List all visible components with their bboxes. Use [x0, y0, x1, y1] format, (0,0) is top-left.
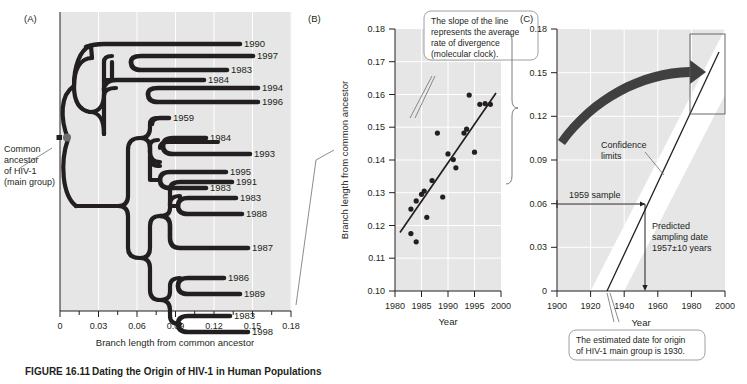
panel-b-ytick: 0.10 [367, 286, 385, 296]
panel-b-xtick: 1985 [411, 301, 431, 311]
panel-a-xlabel: Branch length from common ancestor [96, 337, 254, 348]
data-point [414, 239, 419, 244]
callout-c-line-1: The estimated date for origin [576, 335, 686, 345]
panel-b-ylabel: Branch length from common ancestor [339, 81, 350, 239]
panel-b-xtick: 1995 [464, 301, 484, 311]
panel-b-xtick: 2000 [491, 301, 511, 311]
panel-c-ytick: 0.06 [529, 199, 547, 209]
panel-c-ytick: 0.03 [529, 242, 547, 252]
tip-label: 1989 [244, 288, 265, 299]
callout-c-line-2: of HIV-1 main group is 1930. [576, 346, 685, 356]
tip-label: 1993 [254, 148, 275, 159]
panel-b-y-axis: 0.10 0.11 0.12 0.13 0.14 0.15 0.16 0.17 … [339, 24, 395, 296]
panel-c-ytick: 0.18 [529, 24, 547, 34]
panel-c: (C) [520, 13, 735, 360]
data-point [464, 127, 469, 132]
tip-label: 1983 [210, 182, 231, 193]
tip-label: 1984 [208, 74, 229, 85]
panel-b: (B) [308, 11, 538, 327]
panel-c-ytick: 0.12 [529, 111, 547, 121]
callout-b-line-1: The slope of the line [431, 16, 509, 26]
panel-b-letter: (B) [308, 13, 321, 24]
tip-label: 1983 [234, 310, 255, 321]
panel-b-ytick: 0.18 [367, 24, 385, 34]
panel-a-letter: (A) [24, 13, 37, 24]
data-point [477, 102, 482, 107]
panel-c-xtick: 1900 [547, 301, 567, 311]
sample-1959-label: 1959 sample [569, 190, 621, 200]
panel-b-ytick: 0.15 [367, 122, 385, 132]
common-ancestor-line-3: of HIV-1 [4, 166, 37, 176]
callout-b-line-3: rate of divergence [431, 38, 500, 48]
panel-a-xtick: 0.06 [128, 321, 146, 331]
panel-c-xlabel: Year [631, 317, 650, 328]
data-point [414, 198, 419, 203]
data-point [451, 157, 456, 162]
data-point [435, 131, 440, 136]
panel-c-xtick: 1940 [614, 301, 634, 311]
data-point [467, 93, 472, 98]
panel-b-ytick: 0.17 [367, 57, 385, 67]
data-point [483, 101, 488, 106]
figure-caption: FIGURE 16.11 Dating the Origin of HIV-1 … [25, 366, 322, 377]
data-point [488, 102, 493, 107]
panel-c-ytick: 0 [542, 286, 547, 296]
panel-a-xtick: 0.03 [90, 321, 108, 331]
common-ancestor-annotation: Common ancestor of HIV-1 (main group) [4, 144, 55, 187]
panel-a-xtick: 0.09 [167, 321, 185, 331]
panel-c-xtick: 2000 [715, 301, 735, 311]
data-point [445, 151, 450, 156]
tip-label: 1991 [236, 176, 257, 187]
tip-label: 1983 [231, 64, 252, 75]
panel-c-xtick: 1960 [648, 301, 668, 311]
panel-a-xtick: 0.12 [205, 321, 223, 331]
data-point [430, 178, 435, 183]
data-point [408, 207, 413, 212]
panel-a: (A) [4, 12, 300, 348]
data-point [453, 165, 458, 170]
panel-c-ytick: 0.09 [529, 155, 547, 165]
confidence-limits-line-2: limits [601, 151, 622, 161]
tip-label: 1987 [252, 242, 273, 253]
panel-b-x-axis: 1980 1985 1990 1995 2000 Year [385, 291, 511, 327]
panel-b-ytick: 0.14 [367, 155, 385, 165]
tip-label: 1986 [228, 272, 249, 283]
data-point [440, 194, 445, 199]
panel-b-ytick: 0.13 [367, 188, 385, 198]
common-ancestor-line-2: ancestor [4, 155, 39, 165]
figure-16-11: (A) [0, 0, 747, 384]
panel-b-ytick: 0.16 [367, 90, 385, 100]
panel-c-xtick: 1980 [681, 301, 701, 311]
bracket-a-to-b [296, 150, 334, 305]
tip-label: 1988 [246, 208, 267, 219]
common-ancestor-line-4: (main group) [4, 177, 55, 187]
figure-number: FIGURE 16.11 [25, 366, 90, 377]
data-point [422, 189, 427, 194]
data-point [408, 231, 413, 236]
confidence-limits-line-1: Confidence [601, 140, 647, 150]
panel-b-ytick: 0.11 [368, 253, 385, 263]
tip-label: 1983 [240, 192, 261, 203]
panel-b-ytick: 0.12 [367, 221, 385, 231]
predicted-date-line-3: 1957±10 years [652, 243, 712, 253]
tip-label: 1994 [262, 82, 283, 93]
panel-c-x-axis: 1900 1920 1940 1960 1980 2000 Year [547, 291, 735, 328]
data-point [424, 215, 429, 220]
figure-svg: (A) [0, 0, 747, 384]
panel-c-ytick: 0.15 [529, 68, 547, 78]
callout-b-line-4: (molecular clock). [431, 49, 498, 59]
predicted-date-line-1: Predicted [652, 221, 690, 231]
tip-label: 1996 [262, 96, 283, 107]
tip-label: 1990 [244, 38, 265, 49]
figure-title: Dating the Origin of HIV-1 in Human Popu… [92, 366, 322, 377]
panel-c-y-axis: 0 0.03 0.06 0.09 0.12 0.15 0.18 [529, 24, 557, 296]
panel-a-xtick: 0.15 [244, 321, 262, 331]
panel-c-letter: (C) [520, 13, 533, 24]
predicted-date-line-2: sampling date [652, 232, 708, 242]
data-point [472, 150, 477, 155]
panel-b-xtick: 1990 [438, 301, 458, 311]
panel-a-xtick: 0.18 [282, 321, 300, 331]
panel-a-xtick: 0 [57, 321, 62, 331]
tip-label: 1959 [173, 112, 194, 123]
common-ancestor-line-1: Common [4, 144, 41, 154]
